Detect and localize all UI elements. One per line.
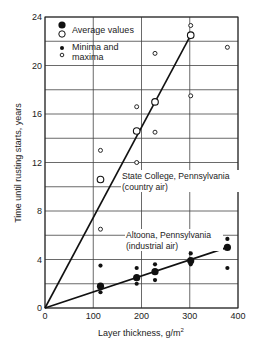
annotation-state-college: State College, Pennsylvania (country air… xyxy=(121,170,241,192)
minmax-point-open xyxy=(98,227,102,231)
legend-open-avg-icon xyxy=(59,31,65,37)
y-tick-label: 12 xyxy=(32,158,42,168)
x-tick-label: 200 xyxy=(134,311,149,321)
average-point-filled xyxy=(224,244,231,251)
average-point-filled xyxy=(97,283,104,290)
minmax-point-filled xyxy=(98,290,102,294)
x-tick-label: 0 xyxy=(42,311,47,321)
legend: Average values Minima and maxima xyxy=(58,21,134,62)
average-point-open xyxy=(187,32,194,39)
y-tick-label: 0 xyxy=(37,303,42,313)
x-tick-label: 300 xyxy=(182,311,197,321)
average-point-open xyxy=(133,128,140,135)
minmax-point-filled xyxy=(225,237,229,241)
minmax-point-open xyxy=(135,105,139,109)
average-point-filled xyxy=(151,268,158,275)
annotation-state-college-line1: State College, Pennsylvania xyxy=(122,171,230,181)
y-tick-label: 24 xyxy=(32,12,42,22)
legend-average-label: Average values xyxy=(72,25,134,35)
minmax-point-filled xyxy=(189,251,193,255)
minmax-point-open xyxy=(189,94,193,98)
x-axis-title-text: Layer thickness, g/m xyxy=(98,328,181,338)
minmax-point-open xyxy=(153,130,157,134)
x-tick-label: 100 xyxy=(86,311,101,321)
legend-open-minmax-icon xyxy=(60,53,64,57)
minmax-point-filled xyxy=(135,266,139,270)
average-point-filled xyxy=(187,257,194,264)
minmax-point-open xyxy=(153,51,157,55)
minmax-point-open xyxy=(189,23,193,27)
y-tick-label: 4 xyxy=(37,255,42,265)
minmax-point-open xyxy=(225,45,229,49)
annotation-altoona-line2: (industrial air) xyxy=(126,241,178,251)
y-axis-title: Time until rusting starts, years xyxy=(13,103,23,223)
annotation-altoona: Altoona, Pennsylvania (industrial air) xyxy=(125,229,223,251)
y-tick-label: 8 xyxy=(37,206,42,216)
average-point-open xyxy=(97,176,104,183)
minmax-point-filled xyxy=(98,263,102,267)
average-point-filled xyxy=(133,274,140,281)
annotation-state-college-line2: (country air) xyxy=(122,182,168,192)
minmax-point-filled xyxy=(135,282,139,286)
average-point-open xyxy=(152,99,159,106)
axes: 010020030040004812162024 xyxy=(32,12,246,321)
data-points xyxy=(97,23,231,294)
x-axis-title: Layer thickness, g/m2 xyxy=(98,327,185,338)
legend-filled-avg-icon xyxy=(58,21,65,28)
x-tick-label: 400 xyxy=(230,311,245,321)
y-tick-label: 20 xyxy=(32,61,42,71)
minmax-point-filled xyxy=(153,278,157,282)
x-axis-title-superscript: 2 xyxy=(181,327,185,333)
minmax-point-open xyxy=(135,161,139,165)
legend-filled-minmax-icon xyxy=(60,46,64,50)
rust-time-chart: 010020030040004812162024 Average values … xyxy=(0,0,255,356)
minmax-point-open xyxy=(98,148,102,152)
y-tick-label: 16 xyxy=(32,109,42,119)
annotation-altoona-line1: Altoona, Pennsylvania xyxy=(126,230,211,240)
minmax-point-filled xyxy=(225,266,229,270)
minmax-point-filled xyxy=(153,262,157,266)
legend-minmax-label-2: maxima xyxy=(72,52,104,62)
legend-minmax-label-1: Minima and xyxy=(72,42,119,52)
